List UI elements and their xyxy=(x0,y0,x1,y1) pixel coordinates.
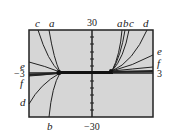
label-c-top-right: c xyxy=(129,18,134,29)
label-b-bottom: b xyxy=(47,121,53,132)
label-b-top-right: b xyxy=(123,18,129,29)
label-d-top-right: d xyxy=(143,18,149,29)
right-convergence-point xyxy=(109,69,113,73)
label-f-left: f xyxy=(20,78,23,89)
label-c-top-left: c xyxy=(35,18,40,29)
label-a-top-left: a xyxy=(49,18,55,29)
label-e-right: e xyxy=(157,46,162,57)
label-a-top-right: a xyxy=(117,18,123,29)
left-convergence-point xyxy=(57,70,62,75)
label-d-left: d xyxy=(20,97,26,108)
y-min-label: −30 xyxy=(84,122,100,132)
y-max-label: 30 xyxy=(87,18,97,28)
x-max-label: 3 xyxy=(157,69,162,79)
